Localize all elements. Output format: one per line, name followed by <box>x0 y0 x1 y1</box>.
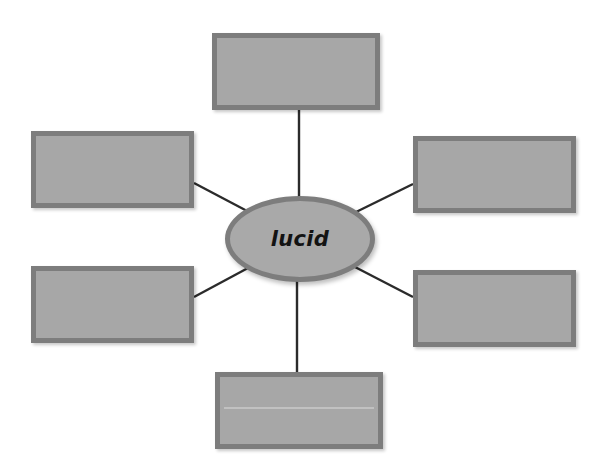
node-box-lower-right-label <box>418 275 571 342</box>
connector-center-to-upper-right <box>354 184 413 213</box>
node-box-upper-right[interactable] <box>413 136 576 213</box>
node-box-lower-left-label <box>36 271 189 338</box>
connector-center-to-upper-left <box>194 183 249 212</box>
node-box-lower-right[interactable] <box>413 270 576 347</box>
node-box-upper-right-label <box>418 141 571 208</box>
connector-center-to-lower-right <box>353 266 413 297</box>
node-box-top-label <box>217 38 375 105</box>
node-box-top[interactable] <box>212 33 380 110</box>
node-box-bottom[interactable] <box>215 372 383 449</box>
node-box-lower-left[interactable] <box>31 266 194 343</box>
center-node-label: lucid <box>271 227 329 251</box>
node-box-upper-left[interactable] <box>31 131 194 208</box>
node-box-upper-left-label <box>36 136 189 203</box>
word-web-diagram: lucid <box>0 0 605 475</box>
connector-center-to-lower-left <box>194 268 248 297</box>
node-box-bottom-label <box>220 377 378 444</box>
center-node-ellipse[interactable]: lucid <box>225 196 375 282</box>
